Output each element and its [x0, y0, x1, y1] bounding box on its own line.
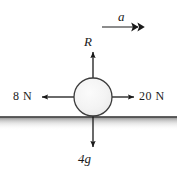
force-label-applied-right: 20 N: [139, 90, 165, 102]
ground-surface: [0, 117, 177, 131]
body-circle: [74, 78, 112, 116]
force-label-applied-left: 8 N: [13, 90, 32, 102]
force-diagram: a R 8 N 20 N 4g: [0, 0, 177, 169]
force-label-weight: 4g: [78, 152, 91, 165]
acceleration-label: a: [118, 10, 125, 23]
diagram-canvas: [0, 0, 177, 169]
force-label-normal-reaction: R: [84, 35, 92, 48]
